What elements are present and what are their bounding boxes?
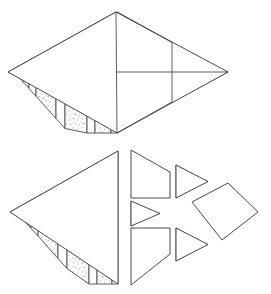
figure-assembled-rhombus [8, 12, 228, 133]
exp-lr-triangle-outline [176, 228, 208, 261]
exp-center-triangle-outline [131, 201, 160, 226]
exp-ur-triangle-outline [176, 165, 208, 198]
exp-piece-lower-right-triangle [176, 228, 208, 261]
figure-root [0, 0, 271, 294]
assembled-rhombus-outline [8, 12, 228, 133]
exp-piece-right-rhombus [192, 183, 258, 240]
figure-exploded-rhombus [10, 150, 258, 285]
dissection-diagram [0, 0, 271, 294]
exp-piece-upper-right-triangle [176, 165, 208, 198]
exp-piece-center-small-triangle [131, 201, 160, 226]
exp-piece-upper-left-parallelogram [131, 150, 170, 198]
exp-piece-lower-left-parallelogram [131, 228, 170, 285]
exp-piece-left-big-triangle [10, 151, 118, 284]
